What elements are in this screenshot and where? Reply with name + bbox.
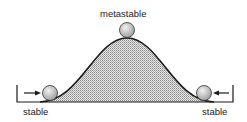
ball-stable-left bbox=[43, 86, 58, 101]
label-stable-right: stable bbox=[202, 106, 227, 117]
arrow-right-icon bbox=[24, 91, 41, 96]
label-metastable: metastable bbox=[100, 8, 146, 19]
arrow-left-icon bbox=[213, 91, 229, 96]
ball-metastable bbox=[120, 23, 135, 38]
ball-stable-right bbox=[197, 86, 212, 101]
label-stable-left: stable bbox=[23, 106, 48, 117]
